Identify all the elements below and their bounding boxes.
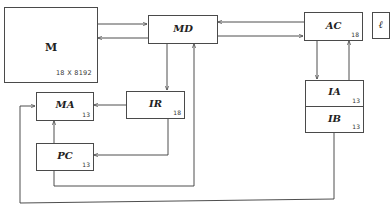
block-ma: MA 13: [36, 92, 94, 121]
block-pc-width: 13: [82, 161, 90, 168]
block-memory-m: M 18 X 8192: [4, 7, 98, 83]
block-ma-width: 13: [82, 111, 90, 118]
block-pc: PC 13: [36, 143, 94, 171]
block-ib-width: 13: [352, 123, 360, 130]
block-memory-m-caption: 18 X 8192: [56, 69, 92, 77]
block-ir-width: 18: [173, 109, 181, 116]
wire-ir-to-pc: [94, 118, 168, 155]
block-ac: AC 18: [304, 12, 363, 41]
block-ma-label: MA: [37, 99, 93, 110]
block-ir: IR 18: [126, 91, 185, 119]
block-ia: IA 13: [305, 80, 364, 107]
block-md: MD: [148, 15, 218, 44]
block-link-l: ℓ: [372, 12, 390, 39]
block-ia-width: 13: [352, 97, 360, 104]
block-pc-label: PC: [37, 150, 93, 161]
block-link-l-label: ℓ: [373, 19, 389, 30]
block-md-label: MD: [149, 23, 217, 34]
block-ib: IB 13: [305, 106, 364, 133]
block-ir-label: IR: [127, 98, 184, 109]
block-ac-label: AC: [305, 20, 362, 31]
block-ac-width: 18: [351, 31, 359, 38]
block-memory-m-label: M: [5, 41, 97, 54]
block-ia-label: IA: [306, 86, 363, 97]
